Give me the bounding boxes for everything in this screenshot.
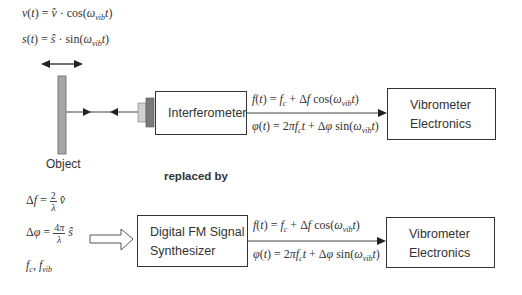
interferometer-box: Interferometer [155,91,247,135]
vibrometer-electronics-box-top: Vibrometer Electronics [387,88,496,140]
vibrometer-label-line2: Electronics [410,117,471,131]
equation-velocity: v(t) = v̂ · cos(ωvibt) [22,6,112,22]
object-bar [58,76,66,154]
lens-inner [146,98,154,127]
synth-label-line2: Synthesizer [150,244,215,258]
synth-label-line1: Digital FM Signal [150,225,244,239]
vibration-double-arrow-icon [41,60,83,68]
param-freqs: fc, fvib [26,258,52,274]
vibrometer-label-line1: Vibrometer [410,98,471,112]
replacement-hollow-arrow-icon [90,229,133,250]
fm-synthesizer-box: Digital FM Signal Synthesizer [137,215,248,267]
signal-arrow-bottom-icon [377,237,386,245]
signal-arrow-top-icon [378,109,387,117]
vibrometer-label-line2: Electronics [409,246,470,260]
bottom-signal-phase: φ(t) = 2πfct + Δφ sin(ωvibt) [253,247,380,263]
vibrometer-label-line1: Vibrometer [409,227,470,241]
top-signal-phase: φ(t) = 2πfct + Δφ sin(ωvibt) [252,119,379,135]
lens-outer [138,103,146,122]
bottom-signal-frequency: f(t) = fc + Δf cos(ωvibt) [253,218,360,234]
vibrometer-electronics-box-bottom: Vibrometer Electronics [386,217,495,268]
object-label: Object [46,157,81,171]
replaced-by-label: replaced by [164,170,228,182]
param-delta-phi: Δφ = 4πλ ŝ [26,222,73,245]
beam-arrow-left-icon [110,108,118,116]
beam-arrow-right-icon [83,108,91,116]
interferometer-label: Interferometer [168,106,247,120]
equation-displacement: s(t) = ŝ · sin(ωvibt) [22,32,109,48]
top-signal-frequency: f(t) = fc + Δf cos(ωvibt) [252,92,359,108]
param-delta-f: Δf = 2λ v̂ [26,190,65,213]
